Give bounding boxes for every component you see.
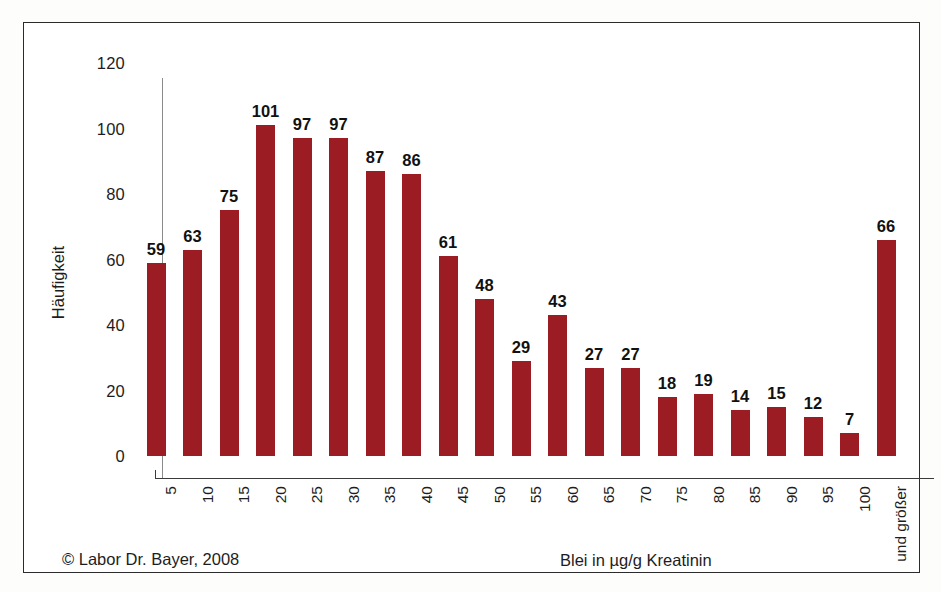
x-axis-tick-label: 35 xyxy=(381,486,399,503)
bar xyxy=(183,250,202,456)
bar-value-label: 7 xyxy=(845,410,854,429)
bar xyxy=(147,263,166,456)
copyright-note: © Labor Dr. Bayer, 2008 xyxy=(62,550,239,569)
bar-group: 6310 xyxy=(183,23,202,456)
x-axis-tick-label: 70 xyxy=(637,486,655,503)
bar-group: 1590 xyxy=(767,23,786,456)
bar-value-label: 27 xyxy=(621,345,639,364)
bar-value-label: 101 xyxy=(252,102,280,121)
bar xyxy=(767,407,786,456)
bar-value-label: 43 xyxy=(548,292,566,311)
bar-value-label: 86 xyxy=(402,151,420,170)
x-axis-tick-label: 40 xyxy=(418,486,436,503)
bar-group: 1295 xyxy=(804,23,823,456)
x-axis-tick-label: und größer xyxy=(892,486,910,562)
x-axis-tick-label: 20 xyxy=(272,486,290,503)
bar xyxy=(840,433,859,456)
x-axis-tick-label: 30 xyxy=(345,486,363,503)
bar-value-label: 14 xyxy=(731,387,749,406)
bar xyxy=(585,368,604,456)
bar xyxy=(877,240,896,456)
bar-value-label: 61 xyxy=(439,233,457,252)
chart-frame: Häufigkeit 020406080100120 5956310751510… xyxy=(23,22,920,573)
bar-value-label: 15 xyxy=(767,384,785,403)
x-axis-tick-label: 10 xyxy=(199,486,217,503)
x-axis-title: Blei in µg/g Kreatinin xyxy=(560,551,712,570)
bar-group: 2765 xyxy=(585,23,604,456)
bar-value-label: 97 xyxy=(293,115,311,134)
bar-group: 2770 xyxy=(621,23,640,456)
bar-group: 4850 xyxy=(475,23,494,456)
bar-value-label: 97 xyxy=(329,115,347,134)
bar xyxy=(256,125,275,456)
x-axis-tick-label: 15 xyxy=(235,486,253,503)
x-axis-tick-label: 85 xyxy=(746,486,764,503)
x-axis-tick-label: 75 xyxy=(673,486,691,503)
bar-group: 595 xyxy=(147,23,166,456)
bar-value-label: 27 xyxy=(585,345,603,364)
bar xyxy=(658,397,677,456)
y-axis-tick-label: 20 xyxy=(79,381,125,400)
bar xyxy=(220,210,239,456)
bar xyxy=(366,171,385,456)
y-axis-tick-label: 100 xyxy=(79,119,125,138)
bar xyxy=(548,315,567,456)
bar-value-label: 19 xyxy=(694,371,712,390)
y-axis-tick-label: 120 xyxy=(79,54,125,73)
x-axis-tick-label: 60 xyxy=(564,486,582,503)
bar-group: 7100 xyxy=(840,23,859,456)
bar-value-label: 59 xyxy=(147,240,165,259)
bar-group: 9725 xyxy=(293,23,312,456)
x-axis-tick-label: 65 xyxy=(600,486,618,503)
bar-group: 10120 xyxy=(256,23,275,456)
x-axis-origin-tick xyxy=(155,470,156,479)
bar-group: 9730 xyxy=(329,23,348,456)
bar xyxy=(512,361,531,456)
bar-group: 8735 xyxy=(366,23,385,456)
x-axis-tick-label: 95 xyxy=(819,486,837,503)
bar-group: 4360 xyxy=(548,23,567,456)
bar-group: 2955 xyxy=(512,23,531,456)
y-axis-title: Häufigkeit xyxy=(49,246,68,319)
x-axis-tick-label: 5 xyxy=(162,486,180,495)
bar xyxy=(804,417,823,456)
y-axis-tick-label: 80 xyxy=(79,185,125,204)
bar xyxy=(621,368,640,456)
bar xyxy=(439,256,458,456)
x-axis-tick-label: 100 xyxy=(856,486,874,512)
x-axis-tick-label: 25 xyxy=(308,486,326,503)
y-axis-tick-label: 60 xyxy=(79,250,125,269)
bar-group: 1485 xyxy=(731,23,750,456)
plot-area: Häufigkeit 020406080100120 5956310751510… xyxy=(24,23,919,572)
bar-value-label: 12 xyxy=(804,394,822,413)
bar-group: 7515 xyxy=(220,23,239,456)
bar xyxy=(293,138,312,456)
bar-value-label: 63 xyxy=(183,227,201,246)
x-axis-tick-label: 90 xyxy=(783,486,801,503)
x-axis-tick-label: 45 xyxy=(454,486,472,503)
x-axis-line xyxy=(155,478,934,479)
x-axis-tick-label: 55 xyxy=(527,486,545,503)
bar-value-label: 29 xyxy=(512,338,530,357)
bar-group: 66und größer xyxy=(877,23,896,456)
x-axis-tick-label: 80 xyxy=(710,486,728,503)
x-axis-tick-label: 50 xyxy=(491,486,509,503)
bar-group: 8640 xyxy=(402,23,421,456)
bar-value-label: 66 xyxy=(877,217,895,236)
y-axis-tick-label: 0 xyxy=(79,447,125,466)
bar-value-label: 18 xyxy=(658,374,676,393)
bar-group: 1875 xyxy=(658,23,677,456)
bar-group: 6145 xyxy=(439,23,458,456)
bar xyxy=(731,410,750,456)
y-axis-tick-label: 40 xyxy=(79,316,125,335)
bar xyxy=(475,299,494,456)
bar xyxy=(402,174,421,456)
bar-value-label: 48 xyxy=(475,276,493,295)
bar xyxy=(694,394,713,456)
bar-value-label: 87 xyxy=(366,148,384,167)
chart-page: Häufigkeit 020406080100120 5956310751510… xyxy=(0,0,941,592)
bar-value-label: 75 xyxy=(220,187,238,206)
bar xyxy=(329,138,348,456)
bar-group: 1980 xyxy=(694,23,713,456)
